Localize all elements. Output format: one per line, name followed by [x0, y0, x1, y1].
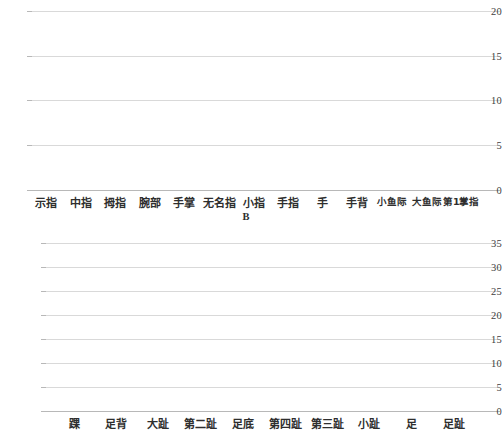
x-axis-category-label: 第1掌指 [443, 194, 480, 208]
x-axis-category-label: 第三趾 [311, 415, 344, 431]
y-axis-tick-label: 25 [462, 285, 502, 296]
y-axis-tick-mark [27, 190, 32, 191]
gridline [46, 243, 500, 244]
x-axis-category-label: 手掌 [173, 194, 195, 210]
x-axis-category-label: 第四趾 [269, 415, 302, 431]
gridline [46, 339, 500, 340]
gridline [46, 363, 500, 364]
y-axis-tick-label: 15 [476, 50, 502, 61]
gridline [32, 56, 500, 57]
y-axis-tick-label: 15 [462, 333, 502, 344]
x-axis-category-label: 手 [317, 194, 328, 210]
y-axis-tick-mark [41, 315, 46, 316]
plot-area-b: 05101520示指中指拇指腕部手掌无名指小指手指手手背小鱼际大鱼际第1掌指B [0, 0, 502, 230]
x-axis-category-label: 手指 [277, 194, 299, 210]
y-axis-tick-label: 0 [476, 185, 502, 196]
y-axis-tick-label: 5 [476, 140, 502, 151]
gridline [32, 11, 500, 12]
x-axis-category-label: 手背 [346, 194, 368, 210]
y-axis-tick-mark [41, 387, 46, 388]
gridline [46, 315, 500, 316]
x-axis-category-label: 足背 [105, 415, 127, 431]
y-axis-tick-mark [27, 11, 32, 12]
bar-chart-hand-sites: 05101520示指中指拇指腕部手掌无名指小指手指手手背小鱼际大鱼际第1掌指B [0, 0, 502, 230]
y-axis-tick-label: 5 [462, 381, 502, 392]
gridline [46, 387, 500, 388]
x-axis-line [32, 190, 500, 191]
y-axis-tick-label: 10 [476, 95, 502, 106]
x-axis-category-label: 足 [406, 415, 417, 431]
y-axis-tick-mark [41, 339, 46, 340]
y-axis-tick-label: 35 [462, 237, 502, 248]
y-axis-tick-label: 0 [462, 406, 502, 417]
x-axis-category-label: 示指 [35, 194, 57, 210]
x-axis-category-label: 大趾 [147, 415, 169, 431]
y-axis-tick-mark [41, 411, 46, 412]
x-axis-category-label: 中指 [70, 194, 92, 210]
x-axis-category-label: 无名指 [203, 194, 236, 210]
x-axis-category-label: 第二趾 [184, 415, 217, 431]
gridline [32, 145, 500, 146]
gridline [46, 267, 500, 268]
y-axis-tick-mark [27, 145, 32, 146]
x-axis-category-label: 拇指 [104, 194, 126, 210]
y-axis-tick-mark [41, 243, 46, 244]
y-axis-tick-mark [27, 100, 32, 101]
x-axis-category-label: 腕部 [139, 194, 161, 210]
x-axis-category-label: 大鱼际 [412, 194, 442, 208]
y-axis-tick-label: 30 [462, 261, 502, 272]
x-axis-category-label: 足趾 [443, 415, 465, 431]
y-axis-tick-label: 20 [462, 309, 502, 320]
x-axis-category-label: 小指 [243, 194, 265, 210]
y-axis-tick-mark [41, 291, 46, 292]
gridline [46, 291, 500, 292]
x-axis-category-label: 足底 [232, 415, 254, 431]
plot-area-c: 05101520253035踝足背大趾第二趾足底第四趾第三趾小趾足足趾 [0, 230, 502, 440]
x-axis-category-label: 小趾 [358, 415, 380, 431]
x-axis-category-label: 小鱼际 [377, 194, 407, 208]
x-axis-category-label: 踝 [69, 415, 80, 431]
y-axis-tick-label: 10 [462, 357, 502, 368]
y-axis-tick-mark [41, 363, 46, 364]
x-axis-line [46, 411, 500, 412]
y-axis-tick-mark [41, 267, 46, 268]
y-axis-tick-label: 20 [476, 5, 502, 16]
y-axis-tick-mark [27, 56, 32, 57]
gridline [32, 100, 500, 101]
bar-chart-foot-sites: 05101520253035踝足背大趾第二趾足底第四趾第三趾小趾足足趾 [0, 230, 502, 440]
figure-page: 05101520示指中指拇指腕部手掌无名指小指手指手手背小鱼际大鱼际第1掌指B … [0, 0, 502, 440]
x-axis-title: B [242, 211, 249, 222]
